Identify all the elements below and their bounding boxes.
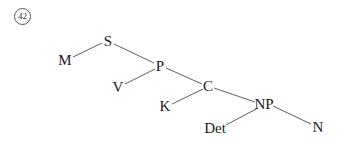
node-s: S bbox=[104, 34, 112, 49]
node-p: P bbox=[156, 59, 164, 74]
node-m: M bbox=[58, 53, 71, 68]
edge-p-v bbox=[125, 69, 155, 84]
tree-edges bbox=[0, 0, 341, 146]
edge-s-p bbox=[114, 44, 154, 63]
edge-c-np bbox=[214, 88, 255, 102]
node-np: NP bbox=[254, 97, 273, 112]
edge-c-k bbox=[172, 89, 203, 104]
node-k: K bbox=[160, 99, 171, 114]
node-v: V bbox=[113, 80, 124, 95]
node-c: C bbox=[203, 79, 213, 94]
edge-s-m bbox=[73, 43, 102, 57]
node-det: Det bbox=[204, 121, 226, 136]
node-n: N bbox=[313, 120, 324, 135]
edge-p-c bbox=[166, 68, 202, 84]
edge-np-n bbox=[273, 106, 311, 124]
edge-np-det bbox=[226, 108, 258, 125]
